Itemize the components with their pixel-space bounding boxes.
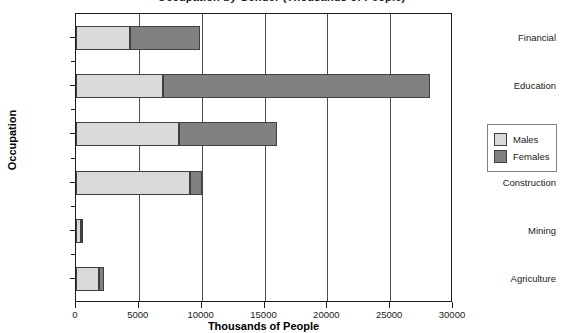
plot-area <box>75 13 452 302</box>
y-axis-tick <box>70 230 75 231</box>
y-axis-minor-tick <box>71 158 75 159</box>
x-axis-label: 5000 <box>108 309 168 320</box>
bar-segment-females <box>179 122 277 146</box>
chart-title: Occupation by Gender (Thousands of Peopl… <box>0 0 563 5</box>
bar-segment-males <box>76 122 179 146</box>
x-axis-tick <box>389 302 390 308</box>
y-axis-tick <box>70 278 75 279</box>
gridline <box>139 14 140 301</box>
bar-segment-males <box>76 74 163 98</box>
bar-segment-females <box>190 171 201 195</box>
bar-segment-males <box>76 267 99 291</box>
x-axis-label: 20000 <box>296 309 356 320</box>
x-axis-label: 10000 <box>171 309 231 320</box>
gridline <box>265 14 266 301</box>
y-axis-label: Mining <box>493 224 563 235</box>
bar-chart: Occupation by Gender (Thousands of Peopl… <box>0 0 563 333</box>
x-axis-tick <box>138 302 139 308</box>
x-axis-label: 0 <box>45 309 105 320</box>
gridline <box>202 14 203 301</box>
bar-segment-females <box>81 219 83 243</box>
y-axis-minor-tick <box>71 206 75 207</box>
legend-swatch <box>494 133 507 146</box>
y-axis-minor-tick <box>71 61 75 62</box>
x-axis-label: 15000 <box>234 309 294 320</box>
x-axis-tick <box>264 302 265 308</box>
y-axis-label: Agriculture <box>493 272 563 283</box>
y-axis-label: Education <box>493 80 563 91</box>
x-axis-title: Thousands of People <box>75 320 452 332</box>
bar-segment-females <box>99 267 105 291</box>
y-axis-tick <box>70 85 75 86</box>
gridline <box>390 14 391 301</box>
y-axis-tick <box>70 182 75 183</box>
x-axis-tick <box>201 302 202 308</box>
bar-segment-females <box>163 74 431 98</box>
y-axis-title: Occupation <box>6 65 18 215</box>
bar-segment-males <box>76 26 130 50</box>
x-axis-tick <box>326 302 327 308</box>
bar-segment-females <box>130 26 200 50</box>
legend-label: Females <box>513 151 549 162</box>
legend-label: Males <box>513 134 538 145</box>
bar-segment-males <box>76 171 190 195</box>
x-axis-label: 30000 <box>422 309 482 320</box>
y-axis-tick <box>70 133 75 134</box>
legend-entry: Females <box>494 148 549 165</box>
y-axis-minor-tick <box>71 254 75 255</box>
y-axis-label: Financial <box>493 32 563 43</box>
x-axis-tick <box>452 302 453 308</box>
x-axis-label: 25000 <box>359 309 419 320</box>
legend-swatch <box>494 150 507 163</box>
y-axis-minor-tick <box>71 109 75 110</box>
y-axis-tick <box>70 37 75 38</box>
y-axis-label: Construction <box>493 176 563 187</box>
x-axis-tick <box>75 302 76 308</box>
legend: MalesFemales <box>487 124 557 172</box>
legend-entry: Males <box>494 131 549 148</box>
gridline <box>327 14 328 301</box>
